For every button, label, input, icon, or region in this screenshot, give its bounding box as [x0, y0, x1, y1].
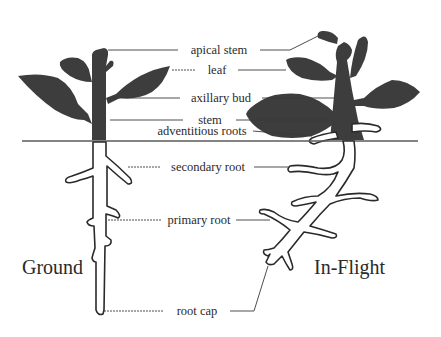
label-axillary-bud: axillary bud [191, 91, 252, 105]
label-secondary-root: secondary root [171, 160, 245, 174]
label-leaf: leaf [208, 63, 228, 77]
panel-label-ground: Ground [22, 256, 83, 278]
inflight-root-system [260, 141, 379, 270]
label-apical-stem: apical stem [191, 43, 248, 57]
plant-diagram: apical stem leaf axillary bud stem adven… [0, 0, 441, 337]
label-root-cap: root cap [177, 304, 218, 318]
label-adventitious-roots: adventitious roots [157, 124, 246, 138]
ground-root-system [66, 142, 132, 315]
ground-plant-shoot [18, 48, 170, 140]
panel-label-in-flight: In-Flight [314, 256, 386, 279]
inflight-plant-shoot [246, 31, 420, 144]
label-primary-root: primary root [168, 213, 231, 227]
